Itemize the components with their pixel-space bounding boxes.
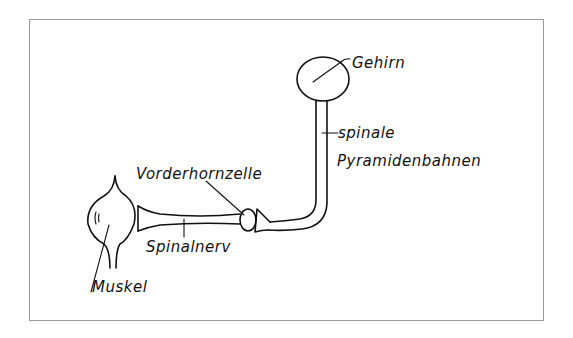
pyramidal-label-line2: Pyramidenbahnen	[337, 152, 481, 170]
motor-pathway-diagram: Gehirn spinale Pyramidenbahnen Vorderhor…	[0, 0, 573, 338]
muscle-label: Muskel	[92, 278, 148, 296]
brain-label: Gehirn	[352, 54, 405, 72]
brain-leader-line	[313, 62, 341, 82]
muscle-node	[88, 176, 135, 292]
anterior-horn-cell-label: Vorderhornzelle	[136, 165, 262, 183]
anterior-horn-leader-line	[206, 181, 244, 215]
spinal-nerve-label: Spinalnerv	[146, 238, 231, 256]
brain-node	[297, 57, 350, 101]
spinal-nerve-tube	[138, 206, 240, 237]
pyramidal-tracts-tube	[255, 101, 338, 232]
pyramidal-label-line1: spinale	[338, 124, 395, 142]
